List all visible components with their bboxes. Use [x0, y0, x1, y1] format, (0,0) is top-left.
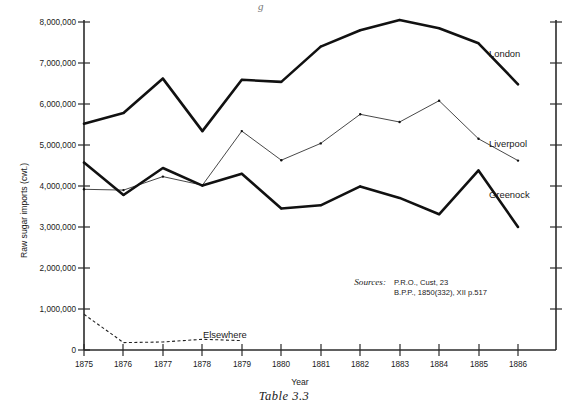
- data-point: [201, 130, 203, 132]
- data-point: [83, 123, 85, 125]
- series-markers-greenock: [83, 162, 519, 228]
- x-tick-label-1883: 1883: [391, 360, 410, 369]
- series-line-greenock: [84, 163, 518, 227]
- axis-lines: [84, 20, 556, 350]
- sources-note: Sources: P.R.O., Cust, 23 B.P.P., 1850(3…: [354, 277, 487, 297]
- data-point: [123, 112, 125, 114]
- data-point: [438, 213, 440, 215]
- data-point: [280, 81, 282, 83]
- y-tick-label-8: 8,000,000: [40, 18, 77, 27]
- data-point: [83, 188, 85, 190]
- x-tick-label-1881: 1881: [312, 360, 331, 369]
- figure-container: g 0 1,000,000 2,000,000 3,000,000 4,000,…: [0, 0, 569, 407]
- data-point: [162, 167, 164, 169]
- x-tick-label-1879: 1879: [233, 360, 252, 369]
- data-point: [122, 189, 124, 191]
- sources-line-1: P.R.O., Cust, 23: [394, 278, 448, 287]
- x-tick-label-1877: 1877: [154, 360, 173, 369]
- x-tick-label-1880: 1880: [272, 360, 291, 369]
- x-tick-label-1882: 1882: [351, 360, 370, 369]
- y-tick-label-1: 1,000,000: [40, 305, 77, 314]
- data-point: [438, 27, 440, 29]
- data-point: [241, 130, 243, 132]
- data-point: [359, 113, 361, 115]
- data-point: [438, 100, 440, 102]
- x-tick-label-1884: 1884: [430, 360, 449, 369]
- y-axis-tick-labels: 0 1,000,000 2,000,000 3,000,000 4,000,00…: [40, 18, 77, 355]
- data-point: [517, 159, 519, 161]
- data-point: [477, 138, 479, 140]
- chart-canvas: g 0 1,000,000 2,000,000 3,000,000 4,000,…: [0, 0, 569, 407]
- data-point: [123, 194, 125, 196]
- y-tick-label-3: 3,000,000: [40, 223, 77, 232]
- data-point: [201, 185, 203, 187]
- x-axis-tick-labels: 1875 1876 1877 1878 1879 1880 1881 1882 …: [75, 360, 528, 369]
- x-tick-label-1875: 1875: [75, 360, 94, 369]
- x-axis-title: Year: [291, 377, 309, 387]
- cropped-title-fragment: g: [258, 0, 264, 12]
- x-tick-label-1885: 1885: [470, 360, 489, 369]
- data-point: [398, 121, 400, 123]
- y-tick-label-7: 7,000,000: [40, 59, 77, 68]
- data-point: [320, 142, 322, 144]
- data-point: [478, 42, 480, 44]
- y-tick-label-2: 2,000,000: [40, 264, 77, 273]
- data-point: [517, 83, 519, 85]
- data-point: [162, 175, 164, 177]
- data-point: [162, 78, 164, 80]
- y-tick-label-5: 5,000,000: [40, 141, 77, 150]
- y-tick-label-6: 6,000,000: [40, 100, 77, 109]
- data-point: [359, 185, 361, 187]
- data-point: [280, 208, 282, 210]
- x-tick-label-1886: 1886: [509, 360, 528, 369]
- data-point: [399, 197, 401, 199]
- data-point: [280, 159, 282, 161]
- data-point: [359, 29, 361, 31]
- sources-line-2: B.P.P., 1850(332), XII p.517: [394, 288, 487, 297]
- series-label-greenock: Greenock: [489, 189, 530, 200]
- data-point: [478, 169, 480, 171]
- series-label-elsewhere: Elsewhere: [203, 329, 247, 340]
- data-point: [83, 162, 85, 164]
- y-tick-label-4: 4,000,000: [40, 182, 77, 191]
- series-label-london: London: [489, 48, 520, 59]
- x-tick-label-1878: 1878: [193, 360, 212, 369]
- x-tick-label-1876: 1876: [114, 360, 133, 369]
- data-point: [320, 46, 322, 48]
- y-axis-title: Raw sugar imports (cwt.): [19, 163, 29, 258]
- data-point: [399, 19, 401, 21]
- data-point: [241, 79, 243, 81]
- y-tick-label-0: 0: [71, 346, 76, 355]
- data-point: [320, 204, 322, 206]
- data-point: [241, 173, 243, 175]
- series-label-liverpool: Liverpool: [489, 138, 527, 149]
- figure-caption: Table 3.3: [259, 389, 310, 403]
- data-point: [517, 226, 519, 228]
- sources-heading: Sources:: [354, 277, 386, 287]
